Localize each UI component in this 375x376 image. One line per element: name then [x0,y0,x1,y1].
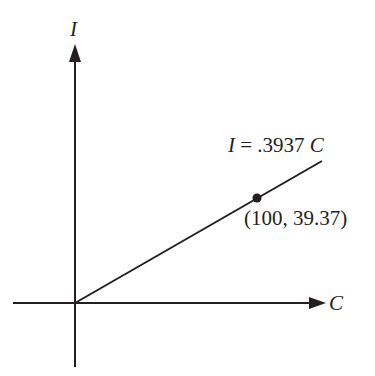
equation-label: I = .3937 C [227,133,325,157]
data-point-marker [253,194,262,203]
x-axis-label: C [329,291,344,315]
graph-canvas: I C I = .3937 C (100, 39.37) [0,0,375,376]
equation-middle: = .3937 [235,133,310,157]
y-axis-label: I [69,17,78,41]
function-line [75,161,322,303]
equation-rhs: C [310,133,325,157]
horizontal-axis [13,297,326,309]
up-arrow-icon [69,44,81,62]
vertical-axis [69,44,81,367]
right-arrow-icon [309,297,326,309]
point-coordinate-label: (100, 39.37) [244,206,347,230]
